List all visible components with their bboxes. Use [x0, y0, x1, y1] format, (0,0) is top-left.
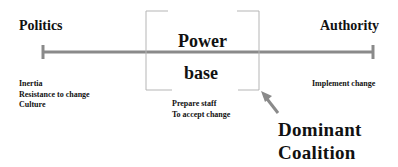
center-notes: Prepare staff To accept change [172, 99, 230, 120]
left-pole-label: Politics [19, 18, 63, 34]
callout-label: Dominant Coalition [278, 118, 362, 164]
right-pole-label: Authority [320, 18, 379, 34]
left-note: Resistance to change [19, 90, 90, 101]
center-label-line1: Power [178, 31, 227, 52]
right-note: Implement change [312, 79, 375, 90]
center-label-line2: base [184, 63, 218, 84]
right-notes: Implement change [312, 79, 375, 90]
center-note: To accept change [172, 110, 230, 121]
arrow-head-icon [261, 91, 272, 102]
callout-line1: Dominant [278, 118, 362, 141]
center-note: Prepare staff [172, 99, 230, 110]
left-note: Inertia [19, 79, 90, 90]
left-notes: Inertia Resistance to change Culture [19, 79, 90, 111]
callout-line2: Coalition [278, 141, 362, 164]
left-note: Culture [19, 100, 90, 111]
